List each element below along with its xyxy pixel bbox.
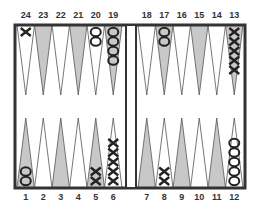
bar	[126, 25, 136, 188]
backgammon-board	[0, 0, 257, 213]
